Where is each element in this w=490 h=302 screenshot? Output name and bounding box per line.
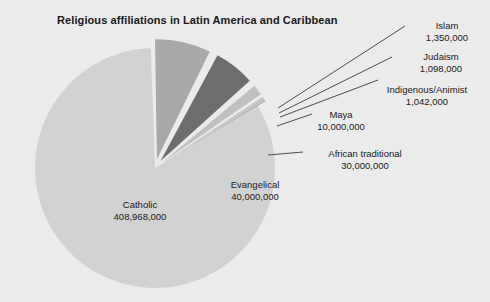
- pie-label-islam-name: Islam: [408, 20, 486, 32]
- pie-label-catholic-name: Catholic: [84, 199, 196, 211]
- pie-label-evangelical-name: Evangelical: [207, 179, 303, 191]
- pie-label-judaism-value: 1,098,000: [395, 63, 487, 75]
- pie-label-evangelical-value: 40,000,000: [207, 191, 303, 203]
- pie-label-islam: Islam 1,350,000: [408, 20, 486, 43]
- pie-label-judaism: Judaism 1,098,000: [395, 51, 487, 74]
- pie-label-indigenous-animist: Indigenous/Animist 1,042,000: [366, 84, 488, 107]
- pie-label-catholic-value: 408,968,000: [84, 211, 196, 223]
- pie-label-maya-name: Maya: [296, 109, 386, 121]
- pie-label-judaism-name: Judaism: [395, 51, 487, 63]
- pie-label-maya: Maya 10,000,000: [296, 109, 386, 132]
- pie-label-islam-value: 1,350,000: [408, 32, 486, 44]
- chart-canvas: Religious affiliations in Latin America …: [0, 0, 490, 302]
- pie-label-maya-value: 10,000,000: [296, 121, 386, 133]
- pie-label-indigenous-animist-name: Indigenous/Animist: [366, 84, 488, 96]
- pie-label-african-traditional-value: 30,000,000: [305, 160, 425, 172]
- pie-label-african-traditional: African traditional 30,000,000: [305, 148, 425, 171]
- pie-label-indigenous-animist-value: 1,042,000: [366, 96, 488, 108]
- pie-label-evangelical: Evangelical 40,000,000: [207, 179, 303, 202]
- pie-label-african-traditional-name: African traditional: [305, 148, 425, 160]
- pie-label-catholic: Catholic 408,968,000: [84, 199, 196, 222]
